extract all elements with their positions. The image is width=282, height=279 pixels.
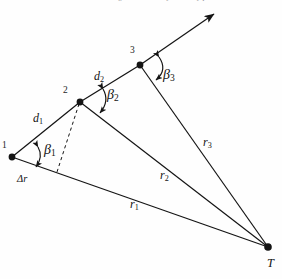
figure-root: Figure 4. Geometry of the ray path [0, 0, 282, 279]
angle-label-beta2-sub: 2 [114, 93, 119, 103]
vertex-dot-1 [9, 154, 16, 161]
delta-r-label: Δr [17, 174, 27, 185]
angle-label-beta1: β1 [44, 143, 56, 159]
angle-label-beta1-base: β [44, 142, 51, 157]
angle-label-beta3-base: β [163, 67, 170, 82]
angle-label-beta3: β3 [163, 68, 175, 84]
ray-continuation-arrow [140, 14, 214, 65]
range-label-r2-sub: 2 [165, 174, 169, 183]
range-label-r1: r1 [130, 198, 139, 212]
angle-label-beta2-base: β [107, 87, 114, 102]
point-label-2: 2 [63, 86, 68, 96]
angle-label-beta2: β2 [107, 88, 119, 104]
segment-label-d1: d1 [33, 112, 43, 126]
angle-label-beta1-sub: 1 [51, 148, 56, 158]
segment-label-d2: d2 [94, 70, 104, 84]
main-ray-path [12, 14, 214, 157]
range-label-r2: r2 [160, 169, 169, 183]
dashed-drop-line [57, 104, 79, 172]
range-label-r1-sub: 1 [135, 203, 139, 212]
point-label-1: 1 [2, 141, 7, 151]
ray-geometry-diagram [0, 0, 282, 279]
target-label-T: T [267, 257, 274, 270]
segment-label-d1-sub: 1 [39, 117, 43, 126]
vertex-dot-target [264, 243, 272, 251]
segment-label-d2-sub: 2 [100, 75, 104, 84]
angle-arc-beta1 [36, 147, 40, 167]
range-label-r3: r3 [203, 136, 212, 150]
angle-label-beta3-sub: 3 [170, 73, 175, 83]
range-line-r3 [140, 65, 268, 247]
point-label-3: 3 [130, 46, 135, 56]
angle-arc-beta2 [100, 89, 106, 113]
range-line-r2 [80, 102, 268, 247]
range-line-r1 [12, 157, 268, 247]
vertex-dot-3 [137, 62, 144, 69]
range-label-r3-sub: 3 [208, 141, 212, 150]
angle-arc-beta3 [156, 57, 163, 80]
vertex-dot-2 [77, 99, 84, 106]
